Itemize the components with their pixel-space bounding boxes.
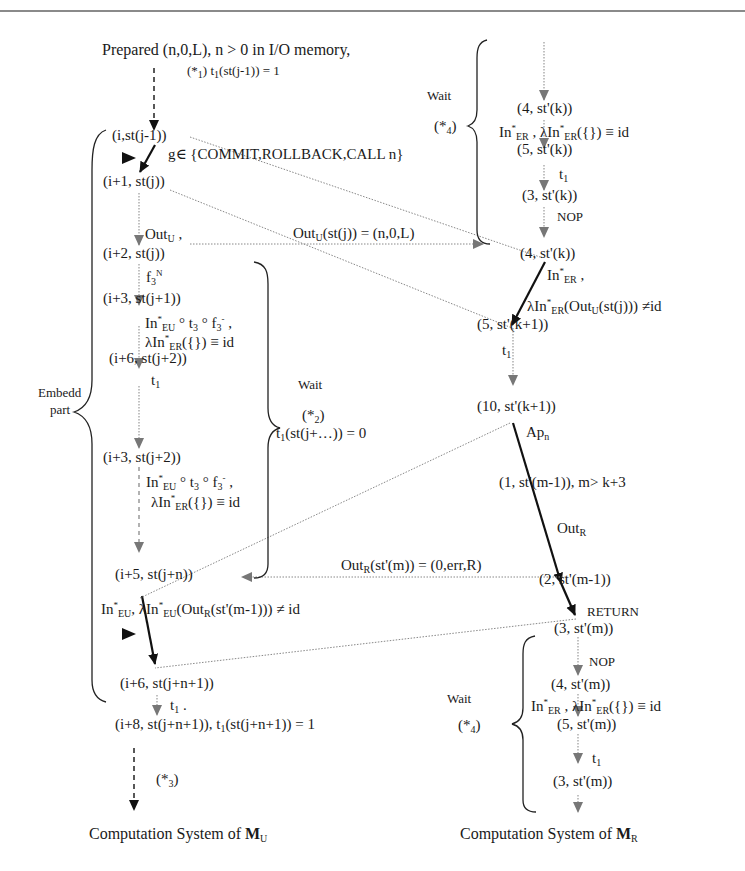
star4-bottom: (*4) — [458, 717, 481, 738]
right-node-1: (5, st'(k)) — [517, 141, 572, 158]
left-lambda-2: λIn*ER({}) ≡ id — [151, 490, 240, 515]
left-node-4: (i+6, st(j+2)) — [109, 350, 187, 367]
wait-label-top: Wait — [427, 87, 451, 104]
right-node-9: (4, st'(m)) — [551, 676, 610, 693]
return-label: RETURN — [587, 603, 639, 620]
t1-label-right-3: t1 — [592, 750, 601, 771]
left-node-0: (i,st(j-1)) — [112, 127, 167, 144]
left-node-5: (i+3, st(j+2)) — [103, 449, 181, 466]
t1-label-left: t1 — [151, 372, 160, 393]
left-node-6: (i+5, st(j+n)) — [115, 566, 193, 583]
t1-zero-label: t1(st(j+…)) = 0 — [276, 425, 366, 446]
left-node-7: (i+6, st(j+n+1)) — [120, 675, 214, 692]
t1-label-bottom: t1 . — [170, 697, 187, 718]
star4-top: (*4) — [434, 118, 457, 139]
out-r-equation: OutR(st'(m)) = (0,err,R) — [341, 557, 482, 578]
part-label: part — [50, 401, 70, 418]
footer-left: Computation System of MU — [89, 825, 267, 847]
embedd-label: Embedd — [38, 384, 81, 401]
star1-annotation: (*1) t1(st(j-1)) = 1 — [187, 62, 280, 83]
right-node-6: (1, st'(m-1)), m> k+3 — [499, 474, 626, 491]
left-last-composite: In*EU, λIn*EU(OutR(st'(m-1))) ≠ id — [101, 597, 300, 622]
nop-label-top: NOP — [557, 208, 583, 225]
right-in-er-2: In*ER , — [547, 263, 584, 288]
nop-label-bottom: NOP — [589, 653, 615, 670]
right-node-0: (4, st'(k)) — [517, 100, 572, 117]
right-node-11: (3, st'(m)) — [553, 773, 612, 790]
star3-annotation: (*3) — [156, 771, 179, 792]
out-r-label: OutR — [557, 520, 586, 541]
t1-label-right-2: t1 — [502, 342, 511, 363]
right-node-3: (4, st'(k)) — [520, 245, 575, 262]
wait-label-bottom: Wait — [447, 690, 471, 707]
right-node-4: (5, st'(k+1)) — [477, 316, 548, 333]
left-node-1: (i+1, st(j)) — [103, 173, 165, 190]
right-node-2: (3, st'(k)) — [522, 187, 577, 204]
out-u-label: OutU , — [145, 226, 182, 247]
g-set-label: g∈ {COMMIT,ROLLBACK,CALL n} — [168, 146, 404, 163]
right-node-8: (3, st'(m)) — [554, 620, 613, 637]
f3-label: f3N — [146, 265, 163, 290]
prepared-label: Prepared (n,0,L), n > 0 in I/O memory, — [102, 41, 350, 58]
wait-label-mid: Wait — [298, 376, 322, 393]
ap-label: Apn — [526, 424, 549, 445]
footer-right: Computation System of MR — [460, 825, 638, 847]
out-u-equation: OutU(st(j)) = (n,0,L) — [293, 225, 415, 246]
left-node-2: (i+2, st(j)) — [103, 245, 165, 262]
left-node-8: (i+8, st(j+n+1)), t1(st(j+n+1)) = 1 — [115, 716, 315, 737]
right-node-10: (5, st'(m)) — [557, 716, 616, 733]
right-node-7: (2, st'(m-1)) — [539, 571, 611, 588]
t1-label-right: t1 — [559, 166, 568, 187]
left-node-3: (i+3, st(j+1)) — [103, 290, 181, 307]
right-node-5: (10, st'(k+1)) — [477, 398, 556, 415]
